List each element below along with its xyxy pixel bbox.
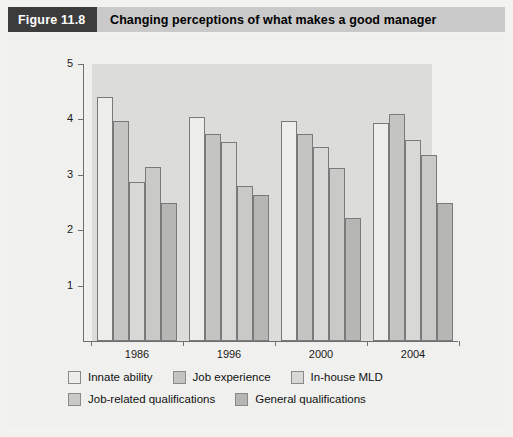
legend-swatch bbox=[68, 371, 81, 384]
legend-item-general-qualifications: General qualifications bbox=[235, 393, 366, 406]
x-tick-mark bbox=[367, 341, 368, 346]
figure-title: Changing perceptions of what makes a goo… bbox=[97, 7, 505, 32]
x-tick-mark bbox=[183, 341, 184, 346]
bar-2000-job-related-qualifications bbox=[329, 168, 345, 341]
bar-2000-in-house-mld bbox=[313, 147, 329, 341]
figure-header: Figure 11.8 Changing perceptions of what… bbox=[8, 7, 505, 32]
legend-label: Job experience bbox=[193, 371, 271, 383]
chart-legend: Innate abilityJob experienceIn-house MLD… bbox=[68, 366, 498, 410]
legend-swatch bbox=[291, 371, 304, 384]
legend-label: General qualifications bbox=[255, 393, 366, 405]
legend-row: Job-related qualificationsGeneral qualif… bbox=[68, 388, 498, 410]
legend-swatch bbox=[173, 371, 186, 384]
x-tick-mark bbox=[91, 341, 92, 346]
bar-2004-job-experience bbox=[389, 114, 405, 341]
bar-1986-job-related-qualifications bbox=[145, 167, 161, 342]
bar-2004-general-qualifications bbox=[437, 203, 453, 342]
bar-2004-job-related-qualifications bbox=[421, 155, 437, 341]
bar-1986-in-house-mld bbox=[129, 182, 145, 341]
legend-label: In-house MLD bbox=[311, 371, 383, 383]
legend-item-innate-ability: Innate ability bbox=[68, 371, 153, 384]
y-tick-label: 3 bbox=[67, 168, 78, 180]
bar-2004-in-house-mld bbox=[405, 140, 421, 341]
bar-1996-job-related-qualifications bbox=[237, 186, 253, 341]
legend-item-job-experience: Job experience bbox=[173, 371, 271, 384]
bar-1996-general-qualifications bbox=[253, 195, 269, 341]
figure-number-tag: Figure 11.8 bbox=[8, 7, 97, 32]
x-label-2000: 2000 bbox=[309, 348, 333, 360]
bar-1996-in-house-mld bbox=[221, 142, 237, 341]
legend-item-in-house-mld: In-house MLD bbox=[291, 371, 383, 384]
legend-item-job-related-qualifications: Job-related qualifications bbox=[68, 393, 215, 406]
bar-1996-innate-ability bbox=[189, 117, 205, 341]
bar-1986-general-qualifications bbox=[161, 203, 177, 341]
legend-label: Job-related qualifications bbox=[88, 393, 215, 405]
legend-row: Innate abilityJob experienceIn-house MLD bbox=[68, 366, 498, 388]
y-tick-label: 2 bbox=[67, 223, 78, 235]
x-label-1996: 1996 bbox=[217, 348, 241, 360]
legend-swatch bbox=[235, 393, 248, 406]
y-tick-label: 1 bbox=[67, 279, 78, 291]
chart-card: 12345 1986199620002004 Innate abilityJob… bbox=[8, 36, 505, 426]
bar-2000-innate-ability bbox=[281, 121, 297, 341]
x-tick-mark bbox=[459, 341, 460, 346]
bar-2000-general-qualifications bbox=[345, 218, 361, 341]
legend-label: Innate ability bbox=[88, 371, 153, 383]
x-label-1986: 1986 bbox=[125, 348, 149, 360]
plot-area: 12345 1986199620002004 bbox=[8, 36, 505, 356]
bar-2004-innate-ability bbox=[373, 123, 389, 341]
legend-swatch bbox=[68, 393, 81, 406]
bar-1986-job-experience bbox=[113, 121, 129, 341]
bar-1986-innate-ability bbox=[97, 97, 113, 341]
x-axis-line bbox=[83, 341, 458, 342]
bar-1996-job-experience bbox=[205, 134, 221, 341]
y-tick-label: 5 bbox=[67, 57, 78, 69]
y-tick-label: 4 bbox=[67, 112, 78, 124]
x-label-2004: 2004 bbox=[401, 348, 425, 360]
figure-page: Figure 11.8 Changing perceptions of what… bbox=[0, 0, 513, 437]
bars-layer bbox=[83, 64, 458, 341]
bar-2000-job-experience bbox=[297, 134, 313, 341]
x-tick-mark bbox=[275, 341, 276, 346]
